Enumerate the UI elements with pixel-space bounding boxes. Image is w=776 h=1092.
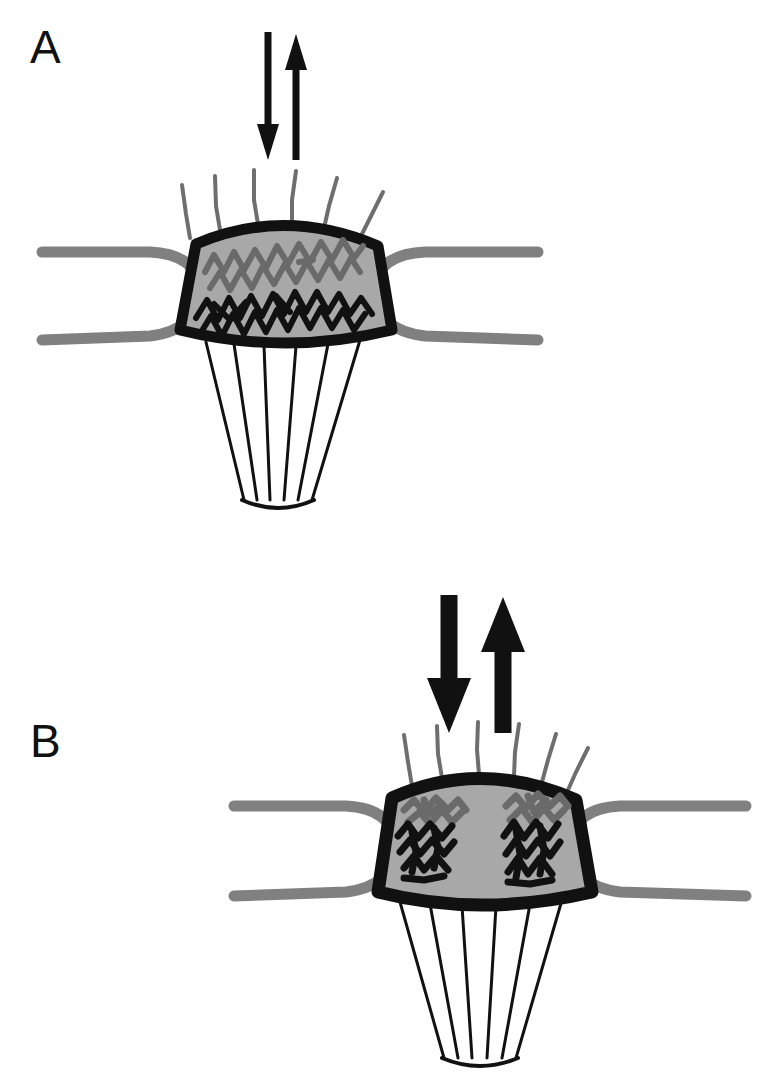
cell-diagram-svg	[0, 0, 776, 1092]
panel-a-arrow-up-icon	[285, 34, 307, 160]
panel-b-arrow-down-icon	[427, 595, 471, 733]
panel-a-label: A	[30, 24, 61, 70]
panel-b-label: B	[30, 718, 61, 764]
panel-a-group	[42, 32, 538, 508]
figure-root: A B	[0, 0, 776, 1092]
panel-b-arrow-pair	[427, 595, 525, 733]
panel-b-root-filaments	[400, 900, 562, 1066]
panel-a-root-filaments	[206, 340, 360, 508]
panel-a-arrow-down-icon	[257, 32, 279, 160]
panel-a-arrow-pair	[257, 32, 307, 160]
panel-b-group	[234, 595, 746, 1066]
panel-b-arrow-up-icon	[481, 597, 525, 733]
